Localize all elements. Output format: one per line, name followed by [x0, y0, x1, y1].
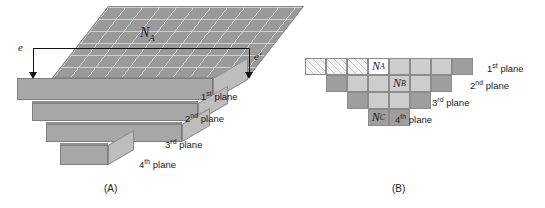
e-arrow-shaft	[33, 48, 34, 74]
panel-a-plane-label-3: 3rd plane	[165, 138, 202, 150]
panel-a-plane-label-4: 4th plane	[139, 158, 176, 170]
grid-cell-r1c5	[389, 58, 410, 75]
plane-row-1: NA	[305, 58, 473, 75]
panel-a-plane-label-1: 1st plane	[201, 90, 238, 102]
panel-a-na-label: NA	[140, 25, 155, 43]
na-symbol: N	[372, 59, 380, 74]
panel-a-plane-2-suffix: nd	[190, 112, 198, 119]
grid-cell-r1c7	[431, 58, 452, 75]
plane-1-top-grid-surface	[52, 6, 304, 78]
grid-cell-r1c1	[305, 58, 326, 75]
panel-a-plane-3-text: plane	[177, 139, 203, 150]
nc-symbol: N	[372, 110, 380, 125]
grid-cell-r1c3	[347, 58, 368, 75]
panel-b: NANBNC 1st plane 2nd plane 3rd plane 4th…	[280, 0, 545, 208]
grid-cell-na: NA	[368, 58, 389, 75]
grid-cell-r3c4	[410, 92, 431, 109]
plane-row-4: NC	[305, 109, 473, 126]
panel-b-plane-label-1: 1st plane	[487, 62, 524, 74]
row-offset-spacer	[326, 109, 347, 126]
panel-a-plane-label-2: 2nd plane	[185, 112, 224, 124]
panel-b-plane-3-text: plane	[444, 97, 470, 108]
nc-subscript: C	[380, 113, 385, 122]
panel-a-plane-1-text: plane	[212, 91, 238, 102]
panel-b-plane-2-text: plane	[483, 80, 509, 91]
grid-cell-r2c3	[368, 75, 389, 92]
row-offset-spacer	[326, 92, 347, 109]
row-offset-spacer	[305, 109, 326, 126]
plane-2-front-face	[32, 103, 198, 121]
grid-cell-r1c2	[326, 58, 347, 75]
edge-e-label: e	[18, 41, 23, 53]
plane-4-front-face	[60, 145, 108, 165]
nb-subscript: B	[401, 79, 406, 88]
e-prime-arrow-shaft	[249, 48, 250, 74]
na-dimension-line	[34, 48, 250, 49]
panel-a: NA e e' 1st plane 2nd plane 3rd plane 4t…	[0, 0, 280, 208]
panel-a-na-symbol: N	[140, 25, 149, 40]
grid-cell-r1c8	[452, 58, 473, 75]
grid-cell-r1c6	[410, 58, 431, 75]
e-arrow-head-icon	[29, 72, 37, 79]
nb-symbol: N	[393, 76, 401, 91]
panel-b-plane-label-2: 2nd plane	[470, 79, 509, 91]
edge-e-prime-label: e'	[254, 50, 261, 62]
panel-a-caption: (A)	[104, 183, 117, 194]
panel-b-plane-2-suffix: nd	[475, 79, 483, 86]
e-prime-arrow-head-icon	[245, 72, 253, 79]
panel-a-plane-2-text: plane	[198, 113, 224, 124]
grid-cell-r3c2	[368, 92, 389, 109]
row-offset-spacer	[305, 92, 326, 109]
row-offset-spacer	[347, 109, 368, 126]
grid-cell-nc: NC	[368, 109, 389, 126]
panel-a-plane-4-text: plane	[150, 159, 176, 170]
panel-a-na-subscript: A	[149, 33, 155, 43]
grid-cell-r2c1	[326, 75, 347, 92]
grid-cell-r2c5	[410, 75, 431, 92]
panel-b-plane-4-text: plane	[406, 114, 432, 125]
grid-cell-r2c6	[431, 75, 452, 92]
panel-b-plane-label-4: 4th plane	[395, 113, 432, 125]
row-offset-spacer	[305, 75, 326, 92]
figure-root: NA e e' 1st plane 2nd plane 3rd plane 4t…	[0, 0, 545, 208]
panel-b-plane-1-text: plane	[498, 63, 524, 74]
plane-row-2: NB	[305, 75, 473, 92]
plane-1-front-face	[17, 78, 213, 100]
grid-cell-r3c1	[347, 92, 368, 109]
plane-cell-grid: NANBNC	[305, 58, 473, 126]
plane-3-front-face	[46, 124, 182, 142]
grid-cell-r3c3	[389, 92, 410, 109]
panel-b-caption: (B)	[392, 183, 405, 194]
grid-cell-r2c2	[347, 75, 368, 92]
panel-b-plane-label-3: 3rd plane	[432, 96, 469, 108]
grid-cell-nb: NB	[389, 75, 410, 92]
na-subscript: A	[380, 62, 385, 71]
